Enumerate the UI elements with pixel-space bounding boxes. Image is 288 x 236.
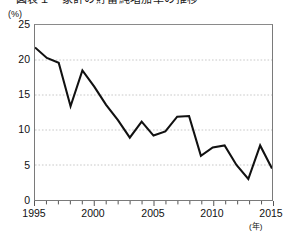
x-tick-2015: 2015 [251, 208, 288, 219]
y-tick-25: 25 [4, 19, 30, 30]
y-tick-0: 0 [4, 195, 30, 206]
y-tick-20: 20 [4, 54, 30, 65]
y-tick-5: 5 [4, 160, 30, 171]
figure-title-cutoff: 図表１ 家計の貯蓄純増加率の推移 [0, 0, 288, 9]
x-tick-1995: 1995 [14, 208, 54, 219]
plot-svg [35, 25, 272, 200]
plot-area [34, 24, 273, 201]
data-line-series [35, 47, 272, 179]
y-axis-tick-labels: 25 20 15 10 5 0 [4, 0, 30, 236]
x-tick-2000: 2000 [73, 208, 113, 219]
x-axis-unit-label: (年) [249, 222, 262, 231]
x-tick-2010: 2010 [192, 208, 232, 219]
y-tick-10: 10 [4, 124, 30, 135]
figure-title-text: 図表１ 家計の貯蓄純増加率の推移 [16, 0, 198, 6]
chart-figure: 図表１ 家計の貯蓄純増加率の推移 (%) 25 20 15 10 5 0 199… [0, 0, 288, 236]
x-tick-2005: 2005 [133, 208, 173, 219]
y-tick-15: 15 [4, 89, 30, 100]
gridlines [35, 60, 272, 165]
